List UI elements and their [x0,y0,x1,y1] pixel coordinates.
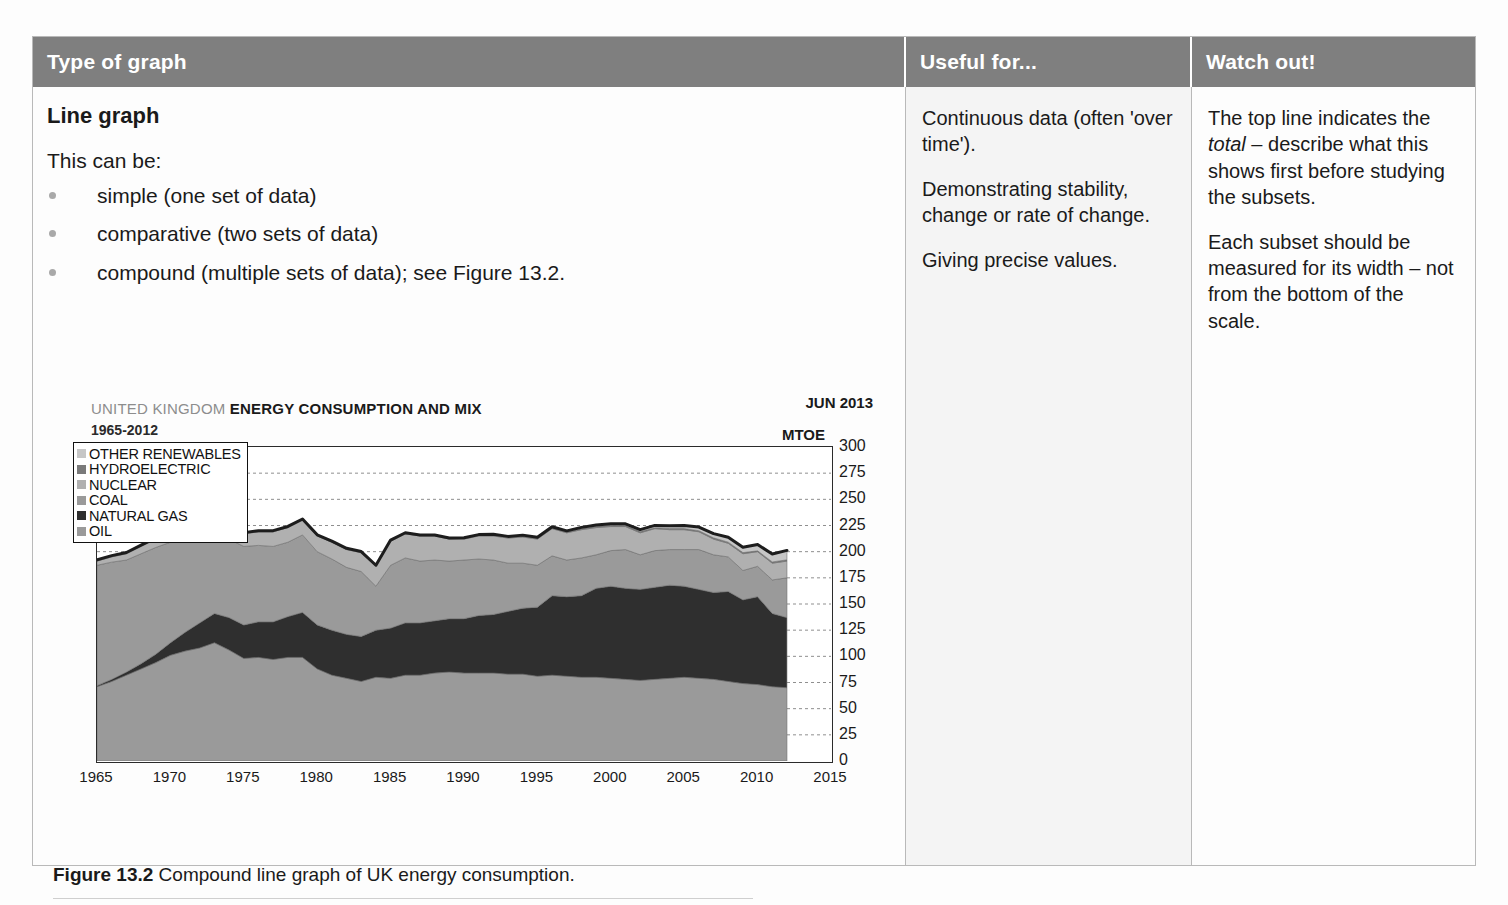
cell-type-of-graph: Line graph This can be: simple (one set … [33,87,906,865]
legend-item: OIL [77,524,241,540]
y-axis-tick: 200 [839,542,866,560]
y-axis-tick: 150 [839,594,866,612]
y-axis-tick: 100 [839,646,866,664]
x-axis-tick: 1990 [446,768,479,785]
header-type-of-graph: Type of graph [33,37,906,87]
cell-watch-out: The top line indicates the total – descr… [1192,87,1475,865]
useful-point: Demonstrating stability, change or rate … [922,176,1173,229]
legend-item: COAL [77,493,241,509]
caption-divider [53,898,753,899]
legend-label: NUCLEAR [89,478,157,493]
graph-types-table: Type of graph Useful for... Watch out! L… [32,36,1476,866]
legend-swatch-icon [77,527,86,536]
y-axis-tick: 75 [839,673,857,691]
x-axis-tick: 1995 [520,768,553,785]
list-item: comparative (two sets of data) [33,221,905,247]
y-axis-tick: 25 [839,725,857,743]
x-axis-tick: 2005 [667,768,700,785]
figure-caption-number: Figure 13.2 [53,864,153,885]
x-axis-tick: 1970 [153,768,186,785]
table-header-row: Type of graph Useful for... Watch out! [33,37,1475,87]
x-axis-labels: 1965197019751980198519901995200020052010… [53,768,873,792]
x-axis-tick: 2000 [593,768,626,785]
legend-swatch-icon [77,480,86,489]
x-axis-tick: 1975 [226,768,259,785]
y-axis-labels: 0255075100125150175200225250275300 [839,438,879,770]
list-item: simple (one set of data) [33,183,905,209]
x-axis-tick: 1980 [300,768,333,785]
x-axis-tick: 1985 [373,768,406,785]
figure-caption: Figure 13.2 Compound line graph of UK en… [53,864,753,886]
useful-point: Giving precise values. [922,247,1173,273]
y-axis-tick: 225 [839,516,866,534]
watch-out-p1-a: The top line indicates the [1208,107,1430,129]
legend-item: NATURAL GAS [77,508,241,524]
figure-caption-text: Compound line graph of UK energy consump… [153,864,574,885]
watch-out-point: Each subset should be measured for its w… [1208,229,1459,335]
chart-subtitle-years: 1965-2012 [91,422,158,438]
x-axis-tick: 2015 [813,768,846,785]
legend-item: NUCLEAR [77,477,241,493]
legend-label: OTHER RENEWABLES [89,447,241,462]
legend-swatch-icon [77,465,86,474]
legend-label: COAL [89,493,128,508]
chart-legend: OTHER RENEWABLESHYDROELECTRICNUCLEARCOAL… [73,442,248,543]
graph-type-title: Line graph [47,103,905,129]
legend-swatch-icon [77,449,86,458]
legend-item: HYDROELECTRIC [77,462,241,478]
header-watch-out: Watch out! [1192,37,1475,87]
y-axis-tick: 125 [839,620,866,638]
y-axis-tick: 250 [839,489,866,507]
y-axis-tick: 300 [839,437,866,455]
watch-out-p1-italic: total [1208,133,1246,155]
page-root: Type of graph Useful for... Watch out! L… [0,0,1508,905]
legend-item: OTHER RENEWABLES [77,446,241,462]
watch-out-point: The top line indicates the total – descr… [1208,105,1459,211]
legend-label: NATURAL GAS [89,509,188,524]
chart-title-subject: ENERGY CONSUMPTION AND MIX [230,400,482,417]
legend-swatch-icon [77,511,86,520]
useful-point: Continuous data (often 'over time'). [922,105,1173,158]
header-useful-for: Useful for... [906,37,1192,87]
chart-unit-label: MTOE [782,426,825,443]
y-axis-tick: 0 [839,751,848,769]
chart-date-label: JUN 2013 [805,394,873,411]
list-item: compound (multiple sets of data); see Fi… [33,260,905,286]
figure-13-2: UNITED KINGDOM ENERGY CONSUMPTION AND MI… [33,390,906,899]
table-body-row: Line graph This can be: simple (one set … [33,87,1475,865]
energy-chart: UNITED KINGDOM ENERGY CONSUMPTION AND MI… [53,390,873,850]
legend-label: HYDROELECTRIC [89,462,210,477]
legend-label: OIL [89,524,112,539]
y-axis-tick: 175 [839,568,866,586]
intro-text: This can be: [47,149,905,173]
x-axis-tick: 2010 [740,768,773,785]
cell-useful-for: Continuous data (often 'over time'). Dem… [906,87,1192,865]
graph-variants-list: simple (one set of data) comparative (tw… [33,183,905,286]
x-axis-tick: 1965 [79,768,112,785]
legend-swatch-icon [77,496,86,505]
y-axis-tick: 50 [839,699,857,717]
chart-title: UNITED KINGDOM ENERGY CONSUMPTION AND MI… [91,400,482,417]
y-axis-tick: 275 [839,463,866,481]
chart-title-country: UNITED KINGDOM [91,400,225,417]
